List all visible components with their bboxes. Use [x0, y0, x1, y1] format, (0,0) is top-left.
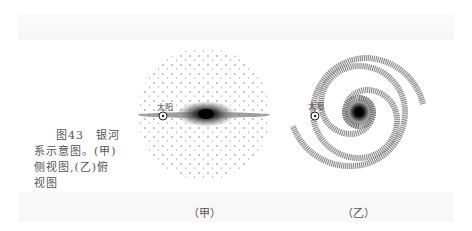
sun-label: 太阳 — [308, 100, 324, 111]
galaxy-top-view — [288, 46, 430, 178]
sun-label: 太阳 — [157, 101, 173, 112]
caption-line: 图43 银河 — [34, 128, 120, 144]
bleed-through-band — [18, 14, 454, 40]
caption-line: 侧视图,(乙)俯 — [34, 160, 120, 176]
figure-caption: 图43 银河 系示意图。(甲) 侧视图,(乙)俯 视图 — [34, 128, 120, 192]
figure-label-yi: （乙） — [342, 204, 375, 220]
figure-label-jia: （甲） — [188, 204, 221, 220]
caption-line: 系示意图。(甲) — [34, 144, 120, 160]
bleed-through-band — [18, 192, 454, 222]
caption-line: 视图 — [34, 176, 120, 192]
galaxy-side-view — [134, 44, 274, 184]
